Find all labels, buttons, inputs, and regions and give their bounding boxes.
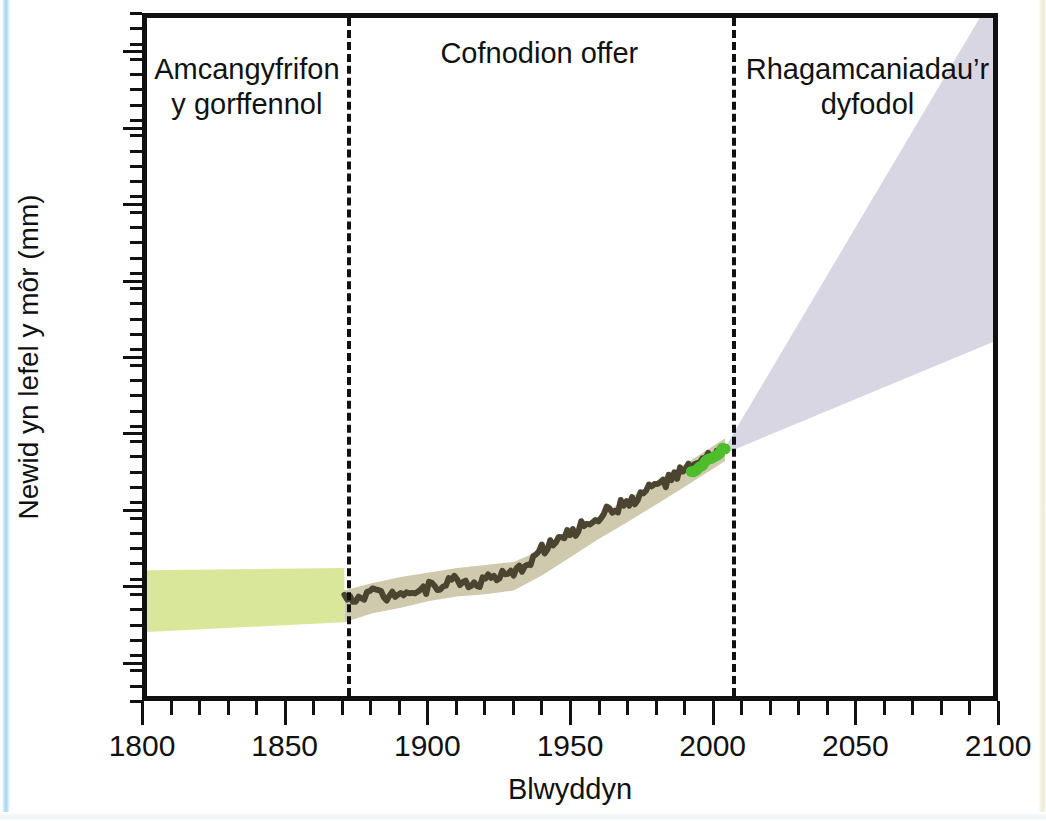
- y-tick-minor: [130, 562, 142, 565]
- y-tick-minor: [130, 471, 142, 474]
- y-tick-major: [123, 203, 142, 206]
- y-tick-minor: [130, 486, 142, 489]
- y-tick-major: [123, 432, 142, 435]
- x-tick-minor: [398, 701, 401, 715]
- y-tick-minor: [130, 333, 142, 336]
- era-label-past-estimates: Amcangyfrifon y gorffennol: [147, 52, 347, 122]
- y-axis-title: Newid yn lefel y môr (mm): [11, 13, 47, 701]
- sea-level-change-chart: Newid yn lefel y môr (mm) 60050060030020…: [0, 0, 1046, 821]
- x-tick-major: [854, 701, 857, 725]
- y-tick-minor: [130, 364, 142, 367]
- y-tick-major: [123, 280, 142, 283]
- past-estimates-band: [147, 568, 344, 632]
- x-tick-label: 2050: [822, 730, 889, 762]
- y-tick-minor: [130, 685, 142, 688]
- x-tick-minor: [598, 701, 601, 715]
- y-tick-minor: [130, 394, 142, 397]
- y-tick-minor: [130, 379, 142, 382]
- y-tick-minor: [130, 12, 142, 15]
- y-tick-minor: [130, 119, 142, 122]
- x-tick-label: 1800: [109, 730, 176, 762]
- y-tick-minor: [130, 257, 142, 260]
- x-tick-minor: [883, 701, 886, 715]
- x-tick-minor: [940, 701, 943, 715]
- y-tick-minor: [130, 348, 142, 351]
- y-tick-minor: [130, 425, 142, 428]
- x-tick-minor: [740, 701, 743, 715]
- x-tick-minor: [512, 701, 515, 715]
- x-tick-minor: [683, 701, 686, 715]
- y-tick-minor: [130, 287, 142, 290]
- x-tick-minor: [369, 701, 372, 715]
- y-tick-minor: [130, 578, 142, 581]
- x-tick-minor: [911, 701, 914, 715]
- x-tick-minor: [626, 701, 629, 715]
- x-tick-minor: [968, 701, 971, 715]
- y-tick-minor: [130, 501, 142, 504]
- y-tick-minor: [130, 104, 142, 107]
- y-tick-minor: [130, 440, 142, 443]
- y-tick-minor: [130, 73, 142, 76]
- y-tick-major: [123, 662, 142, 665]
- y-tick-minor: [130, 58, 142, 61]
- x-tick-minor: [826, 701, 829, 715]
- x-tick-label: 1900: [394, 730, 461, 762]
- y-tick-minor: [130, 639, 142, 642]
- y-tick-minor: [130, 624, 142, 627]
- x-tick-minor: [769, 701, 772, 715]
- x-tick-major: [284, 701, 287, 725]
- y-tick-minor: [130, 88, 142, 91]
- x-tick-minor: [170, 701, 173, 715]
- y-tick-minor: [130, 43, 142, 46]
- x-tick-major: [712, 701, 715, 725]
- era-label-future-projections: Rhagamcaniadau’r dyfodol: [732, 52, 998, 122]
- x-tick-minor: [483, 701, 486, 715]
- x-tick-minor: [312, 701, 315, 715]
- y-tick-minor: [130, 272, 142, 275]
- y-tick-minor: [130, 165, 142, 168]
- x-tick-major: [141, 701, 144, 725]
- x-tick-label: 1850: [251, 730, 318, 762]
- x-tick-label: 2100: [965, 730, 1032, 762]
- y-tick-minor: [130, 241, 142, 244]
- x-tick-minor: [227, 701, 230, 715]
- y-tick-minor: [130, 532, 142, 535]
- y-tick-minor: [130, 517, 142, 520]
- y-tick-minor: [130, 195, 142, 198]
- x-tick-minor: [797, 701, 800, 715]
- y-tick-minor: [130, 27, 142, 30]
- y-tick-minor: [130, 318, 142, 321]
- y-tick-minor: [130, 180, 142, 183]
- era-divider-1870: [347, 18, 351, 696]
- y-tick-major: [123, 509, 142, 512]
- y-tick-minor: [130, 134, 142, 137]
- x-tick-minor: [341, 701, 344, 715]
- y-tick-minor: [130, 226, 142, 229]
- plot-area: Amcangyfrifon y gorffennolCofnodion offe…: [142, 13, 998, 701]
- x-tick-minor: [540, 701, 543, 715]
- x-tick-label: 2000: [679, 730, 746, 762]
- y-tick-major: [123, 585, 142, 588]
- x-tick-major: [569, 701, 572, 725]
- x-tick-major: [426, 701, 429, 725]
- y-tick-minor: [130, 455, 142, 458]
- x-tick-label: 1950: [537, 730, 604, 762]
- y-tick-minor: [130, 593, 142, 596]
- x-axis-title: Blwyddyn: [142, 772, 998, 806]
- y-tick-major: [123, 50, 142, 53]
- y-tick-major: [123, 356, 142, 359]
- x-tick-minor: [255, 701, 258, 715]
- x-tick-major: [997, 701, 1000, 725]
- y-tick-minor: [130, 302, 142, 305]
- y-tick-major: [123, 127, 142, 130]
- y-tick-minor: [130, 669, 142, 672]
- y-tick-minor: [130, 211, 142, 214]
- x-tick-minor: [655, 701, 658, 715]
- x-tick-minor: [455, 701, 458, 715]
- y-tick-minor: [130, 654, 142, 657]
- y-tick-minor: [130, 608, 142, 611]
- y-tick-minor: [130, 150, 142, 153]
- y-tick-minor: [130, 410, 142, 413]
- x-tick-minor: [198, 701, 201, 715]
- era-label-instrumental-record: Cofnodion offer: [347, 36, 732, 71]
